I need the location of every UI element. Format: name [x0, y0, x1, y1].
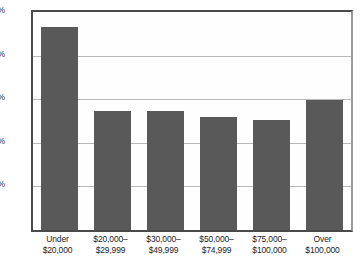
x-axis-label-line: $100,000 — [296, 245, 349, 256]
x-axis-label: $20,000–$29,999 — [84, 234, 137, 255]
x-axis-label-line: $75,000– — [243, 234, 296, 245]
x-axis-label: Over$100,000 — [296, 234, 349, 255]
bar — [41, 27, 78, 230]
y-tick-label-2%: 2% — [0, 136, 5, 146]
x-axis-label-line: $50,000– — [190, 234, 243, 245]
gridline-4% — [33, 56, 351, 57]
x-axis-label-line: Under — [31, 234, 84, 245]
y-tick-label-5%: 5% — [0, 5, 5, 15]
x-axis-label-line: $100,000 — [243, 245, 296, 256]
x-axis-label-line: $74,999 — [190, 245, 243, 256]
x-axis-label-line: $49,999 — [137, 245, 190, 256]
y-tick-label-1%: 1% — [0, 179, 5, 189]
y-tick-label-3%: 3% — [0, 92, 5, 102]
bar — [306, 100, 343, 230]
bar — [147, 111, 184, 230]
x-axis-label-line: $20,000– — [84, 234, 137, 245]
bar-chart: 1%2%3%4%5% Under$20,000$20,000–$29,999$3… — [0, 0, 360, 275]
gridline-3% — [33, 99, 351, 100]
x-axis-label-line: $29,999 — [84, 245, 137, 256]
gridline-2% — [33, 143, 351, 144]
bar — [200, 117, 237, 230]
x-axis-label-line: $30,000– — [137, 234, 190, 245]
bar — [253, 120, 290, 230]
y-tick-label-4%: 4% — [0, 49, 5, 59]
x-axis-label: $75,000–$100,000 — [243, 234, 296, 255]
x-axis-label-line: $20,000 — [31, 245, 84, 256]
x-axis-label-line: Over — [296, 234, 349, 245]
x-axis-label: $30,000–$49,999 — [137, 234, 190, 255]
x-axis-label: Under$20,000 — [31, 234, 84, 255]
bar — [94, 111, 131, 230]
x-axis-label: $50,000–$74,999 — [190, 234, 243, 255]
plot-area — [31, 10, 353, 232]
gridline-1% — [33, 186, 351, 187]
